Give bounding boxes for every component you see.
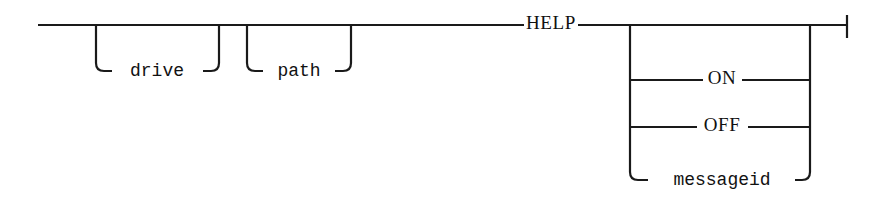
help-keyword-label: HELP [526, 12, 576, 33]
messageid-label: messageid [673, 170, 770, 190]
main-track-group [38, 15, 847, 38]
optional-branch-path[interactable]: path [247, 25, 351, 81]
drive-label: drive [130, 61, 184, 81]
choice-option-messageid[interactable]: messageid [630, 170, 810, 190]
railroad-diagram: drive path HELP ON OFF messageid [0, 0, 888, 197]
off-label: OFF [704, 114, 741, 135]
syntax-diagram-canvas: drive path HELP ON OFF messageid [0, 0, 888, 197]
on-label: ON [708, 67, 737, 88]
optional-branch-drive[interactable]: drive [96, 25, 219, 81]
path-label: path [277, 61, 320, 81]
choice-option-on[interactable]: ON [630, 67, 810, 88]
choice-option-off[interactable]: OFF [630, 114, 810, 135]
choice-group-rails [630, 25, 810, 172]
keyword-help-group[interactable]: HELP [526, 12, 576, 33]
